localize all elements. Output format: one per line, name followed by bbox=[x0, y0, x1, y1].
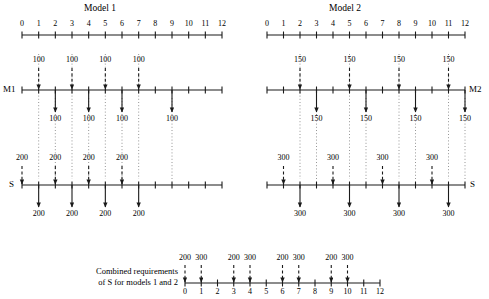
sub-output-qty-label: 300 bbox=[386, 209, 412, 218]
combined-tick-label: 0 bbox=[178, 287, 192, 296]
sub-input-qty-label: 300 bbox=[320, 153, 346, 162]
combined-label-line2: of S for models 1 and 2 bbox=[60, 277, 178, 288]
scale-tick-label: 6 bbox=[115, 19, 129, 28]
combined-tick-label: 10 bbox=[341, 287, 355, 296]
axis-label-m1: M1 bbox=[3, 84, 16, 94]
combined-requirements-label: Combined requirementsof S for models 1 a… bbox=[60, 266, 178, 288]
output-qty-label: 100 bbox=[76, 114, 102, 123]
combined-tick-label: 3 bbox=[227, 287, 241, 296]
combined-tick-label: 5 bbox=[259, 287, 273, 296]
scale-tick-label: 5 bbox=[98, 19, 112, 28]
combined-tick-label: 2 bbox=[211, 287, 225, 296]
scale-tick-label: 0 bbox=[260, 19, 274, 28]
scale-tick-label: 2 bbox=[48, 19, 62, 28]
input-qty-label: 150 bbox=[337, 55, 363, 64]
combined-qty-label: 300 bbox=[188, 253, 214, 262]
scale-tick-label: 5 bbox=[343, 19, 357, 28]
combined-tick-label: 8 bbox=[308, 287, 322, 296]
input-qty-label: 100 bbox=[92, 55, 118, 64]
dotted-connector-lines bbox=[39, 54, 465, 179]
combined-tick-label: 11 bbox=[357, 287, 371, 296]
sub-input-qty-label: 200 bbox=[42, 153, 68, 162]
sub-input-qty-label: 300 bbox=[370, 153, 396, 162]
output-qty-label: 150 bbox=[403, 114, 429, 123]
combined-tick-label: 7 bbox=[292, 287, 306, 296]
scale-tick-label: 9 bbox=[409, 19, 423, 28]
scale-tick-label: 2 bbox=[293, 19, 307, 28]
sub-output-qty-label: 200 bbox=[126, 209, 152, 218]
input-qty-label: 100 bbox=[59, 55, 85, 64]
scale-tick-label: 11 bbox=[442, 19, 456, 28]
scale-tick-label: 10 bbox=[425, 19, 439, 28]
sub-input-qty-label: 300 bbox=[419, 153, 445, 162]
scale-tick-label: 6 bbox=[359, 19, 373, 28]
combined-tick-label: 1 bbox=[194, 287, 208, 296]
scale-tick-label: 7 bbox=[132, 19, 146, 28]
sub-output-qty-label: 200 bbox=[59, 209, 85, 218]
input-qty-label: 150 bbox=[436, 55, 462, 64]
sub-output-qty-label: 300 bbox=[337, 209, 363, 218]
combined-qty-label: 300 bbox=[335, 253, 361, 262]
scale-tick-label: 4 bbox=[82, 19, 96, 28]
scale-tick-label: 12 bbox=[215, 19, 229, 28]
combined-tick-label: 12 bbox=[373, 287, 387, 296]
axis-label-s-model1: S bbox=[9, 179, 14, 189]
output-qty-label: 100 bbox=[159, 114, 185, 123]
axis-label-m2: M2 bbox=[469, 84, 482, 94]
scale-tick-label: 1 bbox=[277, 19, 291, 28]
input-qty-label: 100 bbox=[126, 55, 152, 64]
scale-tick-label: 7 bbox=[376, 19, 390, 28]
scale-tick-label: 3 bbox=[65, 19, 79, 28]
sub-output-qty-label: 200 bbox=[92, 209, 118, 218]
combined-qty-label: 300 bbox=[237, 253, 263, 262]
combined-qty-label: 300 bbox=[286, 253, 312, 262]
sub-input-qty-label: 200 bbox=[9, 153, 35, 162]
combined-label-line1: Combined requirements bbox=[60, 266, 178, 277]
output-qty-label: 100 bbox=[109, 114, 135, 123]
scale-tick-label: 3 bbox=[310, 19, 324, 28]
output-qty-label: 100 bbox=[42, 114, 68, 123]
combined-tick-label: 9 bbox=[324, 287, 338, 296]
scale-tick-label: 1 bbox=[32, 19, 46, 28]
sub-output-qty-label: 300 bbox=[436, 209, 462, 218]
panel-title-model1: Model 1 bbox=[84, 3, 116, 13]
panel-title-model2: Model 2 bbox=[329, 3, 361, 13]
scale-tick-label: 8 bbox=[392, 19, 406, 28]
input-qty-label: 150 bbox=[287, 55, 313, 64]
output-qty-label: 150 bbox=[452, 114, 478, 123]
scale-tick-label: 9 bbox=[165, 19, 179, 28]
scale-tick-label: 12 bbox=[458, 19, 472, 28]
scale-tick-label: 11 bbox=[198, 19, 212, 28]
sub-input-qty-label: 200 bbox=[109, 153, 135, 162]
combined-tick-label: 6 bbox=[276, 287, 290, 296]
sub-output-qty-label: 300 bbox=[287, 209, 313, 218]
output-qty-label: 150 bbox=[304, 114, 330, 123]
scale-tick-label: 4 bbox=[326, 19, 340, 28]
input-qty-label: 150 bbox=[386, 55, 412, 64]
sub-input-qty-label: 300 bbox=[271, 153, 297, 162]
input-qty-label: 100 bbox=[26, 55, 52, 64]
scale-tick-label: 8 bbox=[148, 19, 162, 28]
scale-tick-label: 0 bbox=[15, 19, 29, 28]
scale-tick-label: 10 bbox=[182, 19, 196, 28]
combined-tick-label: 4 bbox=[243, 287, 257, 296]
diagram-canvas: Model 10123456789101112Model 20123456789… bbox=[0, 0, 489, 299]
axis-label-s-model2: S bbox=[470, 179, 475, 189]
sub-input-qty-label: 200 bbox=[76, 153, 102, 162]
sub-output-qty-label: 200 bbox=[26, 209, 52, 218]
output-qty-label: 150 bbox=[353, 114, 379, 123]
